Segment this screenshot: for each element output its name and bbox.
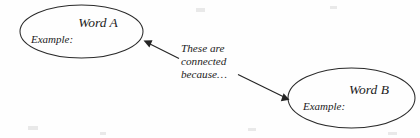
annotation-line-3: because… — [181, 68, 227, 80]
node-word-a-title: Word A — [78, 15, 118, 30]
connection-annotation: These are connected because… — [181, 42, 227, 80]
node-word-b-ellipse — [288, 68, 415, 128]
node-word-b-subtitle: Example: — [302, 100, 345, 112]
arrow-to-word-a-head — [144, 40, 153, 47]
diagram-canvas: Word A Example: Word B Example: These ar… — [0, 0, 420, 138]
arrow-to-word-b[interactable] — [238, 75, 290, 102]
concept-map-diagram: Word A Example: Word B Example: These ar… — [0, 0, 420, 138]
node-word-b[interactable]: Word B Example: — [288, 68, 415, 128]
node-word-b-title: Word B — [349, 82, 389, 97]
node-word-a-subtitle: Example: — [30, 33, 73, 45]
arrow-to-word-a-line — [149, 44, 179, 59]
arrow-to-word-a[interactable] — [144, 40, 180, 58]
annotation-line-2: connected — [181, 55, 227, 67]
arrow-to-word-b-line — [238, 75, 283, 97]
node-word-a[interactable]: Word A Example: — [20, 5, 143, 58]
annotation-line-1: These are — [181, 42, 224, 54]
node-word-a-ellipse — [20, 5, 143, 58]
